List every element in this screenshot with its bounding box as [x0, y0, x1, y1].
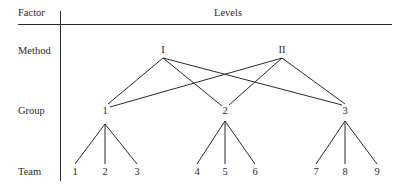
- row-label-group: Group: [18, 105, 45, 117]
- team-node-9: 9: [374, 166, 379, 178]
- group-team-edges: [75, 121, 377, 164]
- method-node-I: I: [161, 44, 165, 56]
- row-label-team: Team: [18, 166, 41, 178]
- team-node-7: 7: [313, 166, 318, 178]
- method-group-edges: [108, 58, 345, 107]
- group-node-2: 2: [222, 105, 227, 117]
- group-node-3: 3: [342, 105, 347, 117]
- team-node-6: 6: [252, 166, 257, 178]
- team-node-8: 8: [342, 166, 347, 178]
- team-node-4: 4: [194, 166, 199, 178]
- diagram-lines: [0, 0, 404, 187]
- team-node-1: 1: [72, 166, 77, 178]
- method-node-II: II: [279, 44, 286, 56]
- group-node-1: 1: [102, 105, 107, 117]
- factor-header: Factor: [18, 7, 45, 19]
- team-node-5: 5: [222, 166, 227, 178]
- team-node-2: 2: [102, 166, 107, 178]
- row-label-method: Method: [18, 45, 51, 57]
- levels-header: Levels: [214, 7, 242, 19]
- team-node-3: 3: [134, 166, 139, 178]
